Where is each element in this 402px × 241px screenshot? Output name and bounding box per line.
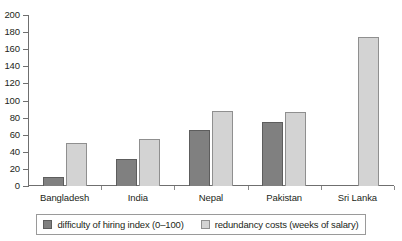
x-axis-tick [394,186,395,190]
y-axis-tick-label: 140 [0,61,20,71]
legend-item-0[interactable]: difficulty of hiring index (0–100) [43,220,183,230]
plot-area [28,15,394,186]
x-axis-label-bangladesh: Bangladesh [28,192,101,203]
legend-label: redundancy costs (weeks of salary) [215,220,359,230]
x-axis-label-sri-lanka: Sri Lanka [321,192,394,203]
bar-chart-figure: 020406080100120140160180200 BangladeshIn… [0,0,402,241]
bar-nepal-series-1 [212,111,233,186]
x-axis-tick [248,186,249,190]
y-axis-tick-label: 100 [0,96,20,106]
y-axis-tick [23,186,29,187]
bar-india-series-1 [139,139,160,186]
y-axis-tick-label: 60 [0,130,20,140]
x-axis-label-pakistan: Pakistan [248,192,321,203]
legend-swatch-icon [43,220,52,229]
y-axis-tick-label: 200 [0,10,20,20]
bar-pakistan-series-1 [285,112,306,186]
bar-nepal-series-0 [189,130,210,186]
legend-item-1[interactable]: redundancy costs (weeks of salary) [201,220,359,230]
bar-bangladesh-series-0 [43,177,64,186]
y-axis-tick-label: 120 [0,78,20,88]
x-axis-label-nepal: Nepal [174,192,247,203]
y-axis-tick-label: 40 [0,147,20,157]
legend-swatch-icon [201,220,210,229]
chart-title-remnant [0,0,402,6]
y-axis-tick-label: 80 [0,113,20,123]
chart-legend: difficulty of hiring index (0–100)redund… [36,214,366,235]
legend-label: difficulty of hiring index (0–100) [57,220,183,230]
bar-bangladesh-series-1 [66,143,87,186]
bar-sri-lanka-series-1 [358,37,379,186]
x-axis-tick [321,186,322,190]
y-axis-tick-label: 20 [0,164,20,174]
x-axis-tick [174,186,175,190]
y-axis-tick-label: 180 [0,27,20,37]
y-axis-tick-label: 160 [0,44,20,54]
x-axis-tick [101,186,102,190]
bar-pakistan-series-0 [262,122,283,186]
bar-india-series-0 [116,159,137,186]
y-axis-tick-label: 0 [0,181,20,191]
x-axis-label-india: India [101,192,174,203]
